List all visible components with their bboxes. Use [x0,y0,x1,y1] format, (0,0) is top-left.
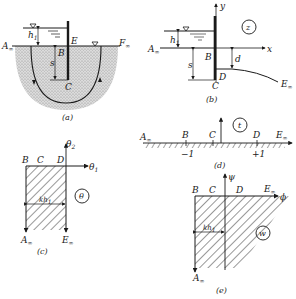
label-c: C [65,82,72,92]
label-s: s [188,60,193,70]
label-b: B [191,185,199,195]
water-level-triangle-icon [183,27,189,31]
label-a-inf: A∞ [192,273,205,284]
label-d: D [235,185,243,195]
caption-d: (d) [214,161,225,170]
label-y: y [219,1,226,11]
label-e-inf: E∞ [61,235,74,246]
label-d-point: D [218,72,226,82]
panel-a: A∞ F∞ E B C h1 s (a) [1,21,130,122]
caption-b: (b) [206,95,217,104]
svg-text:z: z [245,23,251,32]
label-d-dim: d [235,54,241,64]
label-kh1: kh1 [203,224,216,233]
label-c: C [37,155,44,165]
real-axis-hatching [143,143,285,148]
label-a-inf: A∞ [139,132,152,143]
label-c: C [209,130,216,140]
caption-e: (e) [216,286,227,295]
label-b: B [57,48,65,58]
label-d: D [252,130,260,140]
sheet-pile-seepage-figure: A∞ F∞ E B C h1 s (a) z y x A∞ B C D E∞ h… [0,0,296,299]
svg-text:θ: θ [79,192,84,201]
label-kh1: kh1 [39,196,52,205]
label-psi: ψ [228,172,236,182]
tick-plus-1: +1 [252,149,265,159]
label-b: B [181,130,189,140]
label-a-inf: A∞ [1,41,14,52]
label-c: C [212,81,219,91]
panel-b: z y x A∞ B C D E∞ h1 s d (b) [147,1,293,104]
svg-text:t: t [238,121,242,130]
label-e: E [70,36,78,46]
tick-minus-1: −1 [181,149,194,159]
label-b: B [204,52,212,62]
label-theta2: θ2 [66,139,75,150]
label-e-inf: E∞ [263,184,276,195]
panel-d: t A∞ B C D E∞ −1 +1 (d) [139,118,292,170]
svg-text:w: w [259,229,266,238]
label-x: x [267,44,272,54]
label-c: C [209,185,216,195]
label-s: s [50,58,55,68]
label-phi: ϕ [280,192,286,202]
panel-e: w ψ ϕ B C D E∞ A∞ kh1 (e) [191,172,289,295]
caption-a: (a) [62,113,73,122]
water-level-triangle-icon [30,24,36,28]
label-h1: h1 [28,30,38,41]
caption-c: (c) [37,247,48,256]
label-e-inf: E∞ [280,79,293,90]
label-a-inf: A∞ [20,235,33,246]
label-a-inf: A∞ [147,44,160,55]
soil-region [15,46,118,110]
label-d: D [56,155,64,165]
label-theta1: θ1 [89,162,98,173]
panel-c: θ θ2 θ1 B C D A∞ E∞ kh1 (c) [20,139,98,256]
label-f-inf: F∞ [118,38,130,49]
label-b: B [21,155,29,165]
label-e-inf: E∞ [275,130,288,141]
